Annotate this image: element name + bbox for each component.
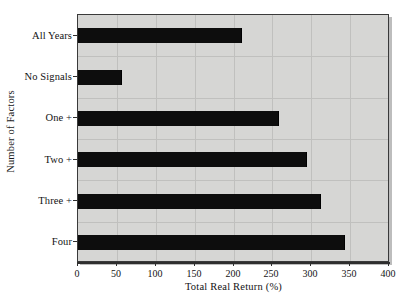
gridline-horizontal <box>78 56 388 57</box>
y-tick-label: Two + <box>44 154 72 165</box>
x-tick-label: 400 <box>381 268 396 279</box>
y-tick-mark <box>73 35 77 36</box>
y-tick-mark <box>73 241 77 242</box>
y-tick-label: No Signals <box>25 71 72 82</box>
x-tick-label: 100 <box>148 268 163 279</box>
x-tick-label: 350 <box>342 268 357 279</box>
y-axis-tick-labels: All YearsNo SignalsOne +Two +Three +Four <box>20 14 75 262</box>
gridline-horizontal <box>78 180 388 181</box>
x-tick-mark <box>233 262 234 266</box>
y-axis-title-label: Number of Factors <box>5 90 16 173</box>
gridline-vertical <box>272 15 273 261</box>
x-tick-label: 300 <box>303 268 318 279</box>
bar-chart: Number of Factors All YearsNo SignalsOne… <box>0 0 411 306</box>
y-axis-title: Number of Factors <box>0 0 20 262</box>
y-tick-mark <box>73 200 77 201</box>
x-tick-mark <box>77 262 78 266</box>
gridline-vertical <box>311 15 312 261</box>
x-tick-label: 250 <box>264 268 279 279</box>
x-tick-label: 200 <box>226 268 241 279</box>
bar <box>78 235 345 250</box>
gridline-horizontal <box>78 222 388 223</box>
gridline-horizontal <box>78 139 388 140</box>
x-tick-mark <box>310 262 311 266</box>
x-axis-title: Total Real Return (%) <box>77 281 390 292</box>
gridline-vertical <box>350 15 351 261</box>
gridline-vertical <box>234 15 235 261</box>
bar <box>78 28 242 43</box>
x-tick-mark <box>194 262 195 266</box>
gridline-vertical <box>156 15 157 261</box>
x-tick-label: 0 <box>75 268 80 279</box>
gridline-vertical <box>117 15 118 261</box>
y-tick-label: One + <box>45 112 72 123</box>
x-tick-mark <box>155 262 156 266</box>
bar <box>78 194 321 209</box>
gridline-horizontal <box>78 98 388 99</box>
x-tick-label: 50 <box>111 268 121 279</box>
y-tick-label: Four <box>52 236 72 247</box>
y-tick-label: Three + <box>38 195 72 206</box>
x-tick-mark <box>116 262 117 266</box>
y-tick-label: All Years <box>32 30 72 41</box>
gridline-vertical <box>195 15 196 261</box>
x-tick-mark <box>388 262 389 266</box>
x-tick-mark <box>271 262 272 266</box>
bar <box>78 111 279 126</box>
y-tick-mark <box>73 159 77 160</box>
x-tick-label: 150 <box>187 268 202 279</box>
bar <box>78 70 122 85</box>
plot-area <box>77 14 389 262</box>
y-tick-mark <box>73 117 77 118</box>
y-tick-mark <box>73 76 77 77</box>
x-tick-mark <box>349 262 350 266</box>
bar <box>78 152 307 167</box>
